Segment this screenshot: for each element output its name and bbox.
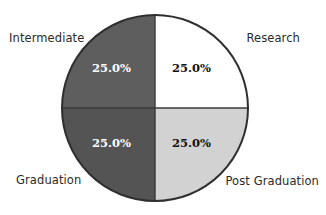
pie-value-intermediate: 25.0% — [92, 63, 131, 75]
pie-label-graduation: Graduation — [16, 175, 81, 187]
pie-value-graduation: 25.0% — [92, 138, 131, 150]
pie-value-research: 25.0% — [172, 63, 211, 75]
pie-label-research: Research — [246, 33, 300, 45]
pie-label-intermediate: Intermediate — [9, 33, 84, 45]
pie-chart: Intermediate Research Graduation Post Gr… — [0, 0, 326, 215]
pie-label-post-graduation: Post Graduation — [225, 176, 319, 188]
pie-value-post-graduation: 25.0% — [172, 138, 211, 150]
pie-slice-graduation[interactable] — [62, 108, 155, 201]
